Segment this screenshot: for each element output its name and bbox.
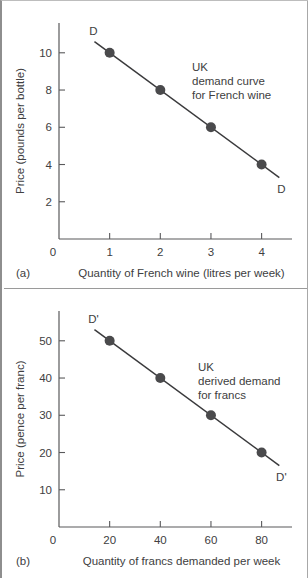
annotation-line-3: for francs xyxy=(198,389,246,401)
data-point-40-40 xyxy=(155,373,165,383)
y-tick-label-10: 10 xyxy=(39,47,52,59)
curve-label-start: D xyxy=(89,25,97,37)
annotation-line-1: UK xyxy=(192,61,208,73)
chart-svg-panel-b: 1020304050020406080D'D'UKderived demandf… xyxy=(2,289,308,578)
x-tick-label-20: 20 xyxy=(103,534,116,546)
data-point-3-6 xyxy=(206,122,216,132)
panel-letter: (a) xyxy=(16,267,30,279)
y-tick-label-50: 50 xyxy=(39,335,52,347)
demand-curve xyxy=(94,42,279,178)
data-point-4-4 xyxy=(257,160,267,170)
right-border-rule xyxy=(307,1,308,578)
x-tick-label-60: 60 xyxy=(205,534,218,546)
annotation-line-2: demand curve xyxy=(192,75,265,87)
annotation-line-1: UK xyxy=(198,361,214,373)
x-tick-label-0: 0 xyxy=(50,246,56,258)
data-point-80-20 xyxy=(257,448,267,458)
annotation-line-2: derived demand xyxy=(198,375,280,387)
x-axis-title: Quantity of French wine (litres per week… xyxy=(78,267,285,279)
y-tick-label-40: 40 xyxy=(39,372,52,384)
curve-label-end: D xyxy=(277,183,285,195)
chart-panel-a: 24681001234DDUKdemand curvefor French wi… xyxy=(2,1,308,291)
panel-letter: (b) xyxy=(16,555,30,567)
data-point-1-10 xyxy=(105,48,115,58)
curve-annotation: UKderived demandfor francs xyxy=(198,361,280,401)
figure-page: 24681001234DDUKdemand curvefor French wi… xyxy=(0,0,308,578)
curve-annotation: UKdemand curvefor French wine xyxy=(192,61,271,101)
annotation-line-3: for French wine xyxy=(192,89,271,101)
y-tick-label-30: 30 xyxy=(39,409,52,421)
y-axis-title: Price (pounds per bottle) xyxy=(14,68,26,194)
y-tick-label-8: 8 xyxy=(46,84,52,96)
y-tick-label-10: 10 xyxy=(39,484,52,496)
data-point-60-30 xyxy=(206,410,216,420)
chart-svg-panel-a: 24681001234DDUKdemand curvefor French wi… xyxy=(2,1,308,291)
demand-curve xyxy=(94,330,279,466)
data-point-20-50 xyxy=(105,336,115,346)
y-tick-label-2: 2 xyxy=(46,196,52,208)
x-tick-label-40: 40 xyxy=(154,534,167,546)
x-tick-label-80: 80 xyxy=(255,534,268,546)
y-tick-label-4: 4 xyxy=(46,159,53,171)
x-tick-label-0: 0 xyxy=(50,534,56,546)
x-tick-label-3: 3 xyxy=(208,246,214,258)
y-tick-label-20: 20 xyxy=(39,447,52,459)
x-axis-title: Quantity of francs demanded per week xyxy=(83,555,281,567)
x-tick-label-4: 4 xyxy=(258,246,265,258)
chart-panel-b: 1020304050020406080D'D'UKderived demandf… xyxy=(2,289,308,578)
curve-label-start: D' xyxy=(88,313,99,325)
y-tick-label-6: 6 xyxy=(46,121,52,133)
x-tick-label-2: 2 xyxy=(157,246,163,258)
y-axis-title: Price (pence per franc) xyxy=(14,360,26,477)
data-point-2-8 xyxy=(155,85,165,95)
x-tick-label-1: 1 xyxy=(106,246,112,258)
curve-label-end: D' xyxy=(276,471,287,483)
